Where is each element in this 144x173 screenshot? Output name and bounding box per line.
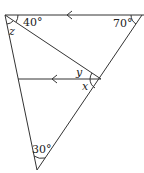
angle-arc-40 xyxy=(16,15,18,22)
angle-label-z: z xyxy=(8,25,15,38)
angle-arc-y xyxy=(90,73,92,79)
angle-label-x: x xyxy=(82,80,89,93)
right-side-line xyxy=(37,15,142,170)
angle-label-30: 30° xyxy=(32,143,52,156)
angle-arc-30 xyxy=(34,156,45,158)
angle-label-40: 40° xyxy=(23,16,43,29)
diagonal-line xyxy=(5,15,101,79)
angle-arc-x xyxy=(90,79,95,88)
angle-label-70: 70° xyxy=(113,17,133,30)
geometry-diagram: 40° z 70° y x 30° xyxy=(0,0,144,173)
angle-label-y: y xyxy=(75,66,83,79)
angle-arc-z xyxy=(7,21,13,24)
